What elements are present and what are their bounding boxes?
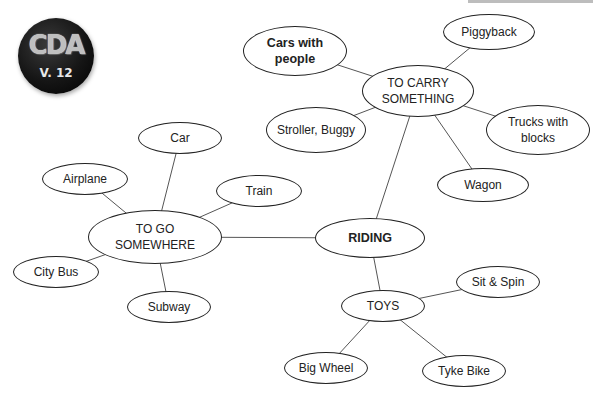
node-label: Piggyback [461,24,516,40]
node-piggyback: Piggyback [443,14,535,50]
node-cars-with-people: Cars with people [243,26,347,76]
node-subway: Subway [127,291,211,323]
node-label: Tyke Bike [438,363,490,379]
node-label: TO CARRY SOMETHING [371,75,465,107]
node-label: Car [170,130,189,146]
node-sit-spin: Sit & Spin [456,266,540,298]
node-label: TO GO SOMEWHERE [97,221,213,253]
node-label: Wagon [464,177,502,193]
node-label: RIDING [348,230,392,246]
node-airplane: Airplane [42,163,128,195]
node-car: Car [138,122,222,154]
node-label: City Bus [34,264,79,280]
node-city-bus: City Bus [13,256,99,288]
node-wagon: Wagon [437,168,529,202]
node-label: TOYS [367,298,399,314]
node-stroller: Stroller, Buggy [266,107,366,153]
node-label: Cars with people [252,35,338,67]
node-label: Big Wheel [299,360,354,376]
node-label: Train [246,183,273,199]
node-to-carry: TO CARRY SOMETHING [362,65,474,117]
node-label: Airplane [63,171,107,187]
node-big-wheel: Big Wheel [284,352,368,384]
node-riding: RIDING [315,218,425,258]
node-tyke-bike: Tyke Bike [422,355,506,387]
node-label: Stroller, Buggy [277,122,355,138]
node-label: Sit & Spin [472,274,525,290]
node-label: Subway [148,299,191,315]
node-label: Trucks with blocks [495,114,581,146]
node-to-go: TO GO SOMEWHERE [88,210,222,264]
node-train: Train [216,175,302,207]
node-trucks: Trucks with blocks [486,105,590,155]
node-toys: TOYS [341,290,425,322]
